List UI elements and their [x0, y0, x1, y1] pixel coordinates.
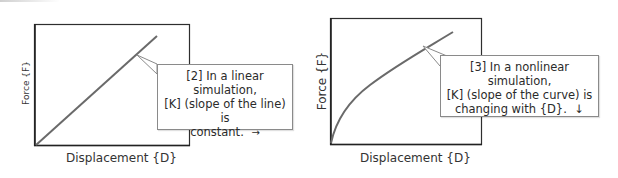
linear-callout: [2] In a linear simulation, [K] (slope o…: [157, 64, 293, 130]
down-arrow-icon: ↓: [574, 102, 584, 116]
nonlinear-callout-line2: [K] (slope of the curve) is: [444, 88, 595, 102]
linear-callout-line3: constant.: [190, 125, 244, 139]
linear-callout-line3-wrap: constant. →: [161, 125, 289, 140]
linear-x-axis-label: Displacement {D}: [66, 151, 177, 165]
nonlinear-callout-line3: changing with {D}.: [455, 102, 567, 116]
linear-callout-line2: [K] (slope of the line) is: [161, 97, 289, 125]
nonlinear-x-axis-label: Displacement {D}: [360, 151, 471, 165]
linear-y-axis-label: Force {F}: [21, 53, 31, 113]
linear-callout-line1: [2] In a linear simulation,: [161, 69, 289, 97]
nonlinear-force-curve: [331, 32, 453, 143]
nonlinear-callout: [3] In a nonlinear simulation, [K] (slop…: [440, 55, 599, 117]
linear-force-line: [36, 36, 157, 145]
nonlinear-y-axis-label: Force {F}: [315, 46, 329, 116]
linear-callout-pointer: [137, 55, 157, 74]
right-arrow-icon: →: [251, 127, 259, 138]
nonlinear-callout-line3-wrap: changing with {D}. ↓: [444, 102, 595, 116]
nonlinear-callout-line1: [3] In a nonlinear simulation,: [444, 60, 595, 88]
